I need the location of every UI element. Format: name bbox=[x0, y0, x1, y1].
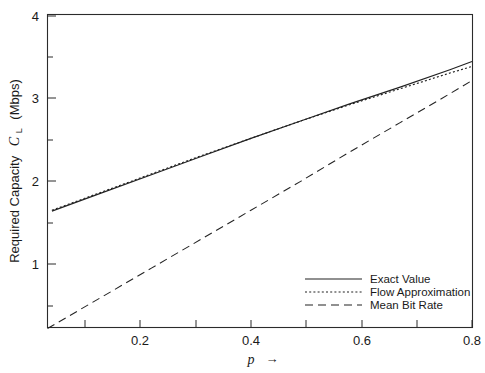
y-tick-labels: 4 3 2 1 bbox=[32, 9, 39, 272]
y-tick-label: 1 bbox=[32, 257, 39, 272]
x-tick-label: 0.8 bbox=[463, 333, 481, 348]
x-tick-labels: 0.2 0.4 0.6 0.8 bbox=[131, 333, 481, 348]
y-tick-label: 3 bbox=[32, 91, 39, 106]
y-axis-ticks bbox=[48, 16, 57, 306]
chart-canvas: 4 3 2 1 0.2 0.4 0.6 0.8 Required Capacit… bbox=[0, 0, 485, 373]
legend-label-exact-value: Exact Value bbox=[370, 273, 431, 285]
x-axis-title-arrow: → bbox=[266, 351, 279, 366]
y-axis-title-prefix: Required Capacity bbox=[7, 155, 22, 262]
svg-text:Required Capacity C: Required Capacity C L (Mbps) bbox=[7, 79, 25, 263]
y-axis-title-symbol: C bbox=[7, 136, 22, 146]
series-line-flow-approximation bbox=[52, 66, 472, 210]
x-tick-label: 0.6 bbox=[353, 333, 371, 348]
y-axis-title: Required Capacity C L (Mbps) bbox=[7, 79, 25, 263]
legend-label-mean-bit-rate: Mean Bit Rate bbox=[370, 299, 443, 311]
chart-figure: 4 3 2 1 0.2 0.4 0.6 0.8 Required Capacit… bbox=[0, 0, 485, 373]
y-axis-title-units: (Mbps) bbox=[7, 79, 22, 119]
x-axis-title-symbol: p bbox=[247, 352, 255, 367]
x-axis-ticks bbox=[85, 320, 472, 328]
chart-legend: Exact Value Flow Approximation Mean Bit … bbox=[305, 273, 470, 311]
y-tick-label: 4 bbox=[32, 9, 39, 24]
series-line-exact-value bbox=[52, 61, 472, 211]
x-tick-label: 0.2 bbox=[131, 333, 149, 348]
y-axis-title-subscript: L bbox=[14, 128, 24, 133]
y-tick-label: 2 bbox=[32, 174, 39, 189]
x-axis-title: p → bbox=[247, 351, 279, 367]
x-tick-label: 0.4 bbox=[242, 333, 260, 348]
legend-label-flow-approximation: Flow Approximation bbox=[370, 286, 470, 298]
